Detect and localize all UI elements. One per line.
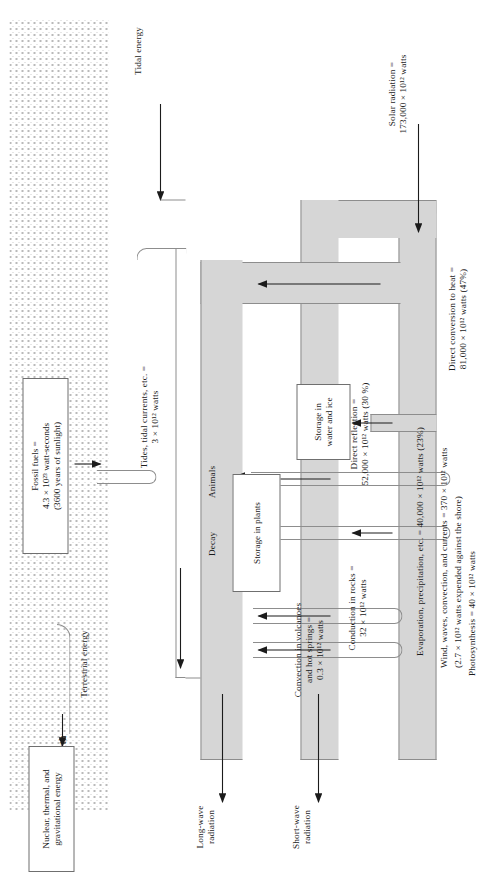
tides-label: Tides, tidal currents, etc. = 3 × 10¹² w… bbox=[138, 322, 160, 512]
storage-plants-label: Storage in plants bbox=[251, 502, 262, 564]
wind-waves-note-label: (2.7 × 10¹² watts expended against the s… bbox=[452, 368, 463, 668]
long-wave-radiation-label: Long-wave radiation bbox=[194, 792, 216, 862]
decay-label: Decay bbox=[206, 532, 217, 556]
evaporation-label: Evaporation, precipitation, etc. = 40,00… bbox=[414, 366, 425, 656]
conduction-rocks-label: Conduction in rocks = 32 × 10¹² watts bbox=[346, 528, 368, 688]
fossil-fuels-label: Fossil fuels = 4.3 × 10²³ watt-seconds (… bbox=[29, 422, 62, 510]
direct-reflection-label: Direct reflection = 52,000 × 10¹² watts … bbox=[348, 334, 370, 534]
tidal-energy-label: Tidal energy bbox=[132, 6, 143, 96]
solar-radiation-label: Solar radiation = 173,000 × 10¹² watts bbox=[386, 14, 408, 174]
storage-water-ice-box: Storage in water and ice bbox=[296, 384, 350, 460]
animals-label: Animals bbox=[206, 466, 217, 498]
nuclear-energy-label: Nuclear, thermal, and gravitational ener… bbox=[40, 769, 62, 848]
nuclear-energy-box: Nuclear, thermal, and gravitational ener… bbox=[28, 746, 74, 872]
convection-volcanoes-label: Convection in volcanoes and hot springs … bbox=[292, 566, 325, 734]
storage-plants-box: Storage in plants bbox=[232, 474, 280, 592]
storage-water-ice-label: Storage in water and ice bbox=[312, 398, 334, 447]
fossil-fuels-box: Fossil fuels = 4.3 × 10²³ watt-seconds (… bbox=[22, 378, 68, 554]
short-wave-radiation-label: Short-wave radiation bbox=[290, 792, 312, 862]
wind-waves-label: Wind, waves, convection, and currents = … bbox=[438, 368, 449, 668]
photosynthesis-label: Photosynthesis = 40 × 10¹² watts bbox=[466, 446, 477, 676]
terrestrial-energy-label: Terrestrial energy bbox=[78, 616, 89, 712]
